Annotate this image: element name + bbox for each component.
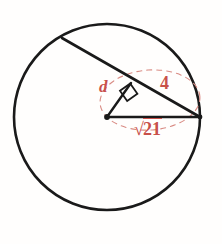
label-half-chord-4: 4 (160, 74, 169, 92)
geometry-figure: d 4 √21 (0, 0, 222, 244)
label-radius-sqrt21: √21 (134, 120, 162, 138)
label-radicand: 21 (143, 118, 162, 139)
chord-endpoint-dot (198, 115, 203, 120)
right-angle-marker (117, 81, 140, 104)
label-distance-d: d (99, 78, 108, 95)
geometry-canvas (0, 0, 222, 244)
chord-line (62, 38, 200, 117)
circle-center-dot (104, 114, 110, 120)
